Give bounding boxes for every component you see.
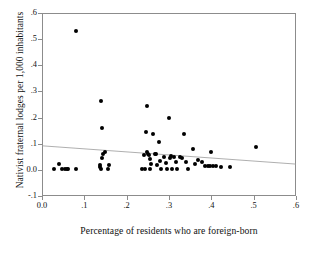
scatter-plot-figure: Nativist fraternal lodges per 1,000 inha…: [0, 0, 315, 254]
y-tick-label: .3: [31, 87, 37, 95]
y-tick-label: .6: [31, 9, 37, 17]
data-point: [180, 156, 184, 160]
x-tick-mark: [84, 196, 85, 200]
x-tick-label: .5: [251, 202, 257, 210]
data-point: [148, 157, 152, 161]
plot-area: -.10.0.1.2.3.4.5.6 0.0.1.2.3.4.5.6: [42, 13, 296, 196]
x-tick-mark: [254, 196, 255, 200]
data-point: [100, 156, 104, 160]
x-tick-label: .4: [208, 202, 214, 210]
data-point: [100, 126, 104, 130]
data-point: [167, 116, 171, 120]
data-point: [52, 167, 56, 171]
y-tick-label: 0.0: [27, 166, 37, 174]
data-point: [103, 150, 107, 154]
y-tick-label: -.1: [28, 192, 37, 200]
data-point: [184, 160, 188, 164]
x-tick-label: .1: [81, 202, 87, 210]
data-point: [107, 163, 111, 167]
x-tick-label: .6: [293, 202, 299, 210]
data-point: [254, 145, 258, 149]
data-point: [99, 99, 103, 103]
data-point: [143, 167, 147, 171]
x-tick-label: .2: [124, 202, 130, 210]
y-tick-label: .4: [31, 61, 37, 69]
y-tick-label: .1: [31, 140, 37, 148]
y-axis-title: Nativist fraternal lodges per 1,000 inha…: [15, 0, 25, 200]
y-tick-label: .2: [31, 113, 37, 121]
data-point: [172, 155, 176, 159]
x-tick-mark: [42, 196, 43, 200]
data-point: [162, 155, 166, 159]
x-tick-mark: [169, 196, 170, 200]
data-point: [200, 160, 204, 164]
data-point: [106, 167, 110, 171]
data-point: [182, 132, 186, 136]
x-tick-label: 0.0: [37, 202, 47, 210]
data-point: [57, 162, 61, 166]
x-axis-title: Percentage of residents who are foreign-…: [42, 225, 296, 236]
x-tick-label: .3: [166, 202, 172, 210]
x-tick-mark: [296, 196, 297, 200]
x-tick-mark: [211, 196, 212, 200]
data-point: [170, 167, 174, 171]
y-tick-label: .5: [31, 35, 37, 43]
x-tick-mark: [127, 196, 128, 200]
data-point: [214, 164, 218, 168]
data-point: [174, 160, 178, 164]
data-point: [164, 161, 168, 165]
